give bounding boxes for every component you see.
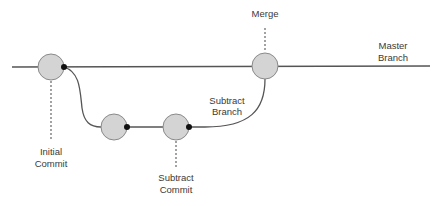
initial-commit-dot [61, 64, 67, 70]
branch-commit-dot [124, 124, 130, 130]
subtract-commit-label-line1: Subtract [158, 172, 194, 183]
subtract-commit-node [163, 114, 189, 140]
diagram-svg: Merge Master Branch Subtract Branch Init… [0, 0, 441, 206]
git-branch-diagram: Merge Master Branch Subtract Branch Init… [0, 0, 441, 206]
subtract-commit-label-line2: Commit [160, 184, 193, 195]
branch-commit-node [101, 114, 127, 140]
initial-commit-node [38, 54, 64, 80]
initial-commit-label-line1: Initial [40, 146, 62, 157]
initial-commit-label-line2: Commit [35, 158, 68, 169]
master-branch-label-line1: Master [378, 40, 407, 51]
subtract-branch-label-line1: Subtract [209, 95, 245, 106]
merge-commit-node [252, 53, 278, 79]
master-branch-line [12, 66, 430, 67]
subtract-branch-label-line2: Branch [212, 106, 242, 117]
master-branch-label-line2: Branch [378, 52, 408, 63]
merge-label: Merge [252, 8, 279, 19]
subtract-commit-dot [186, 124, 192, 130]
